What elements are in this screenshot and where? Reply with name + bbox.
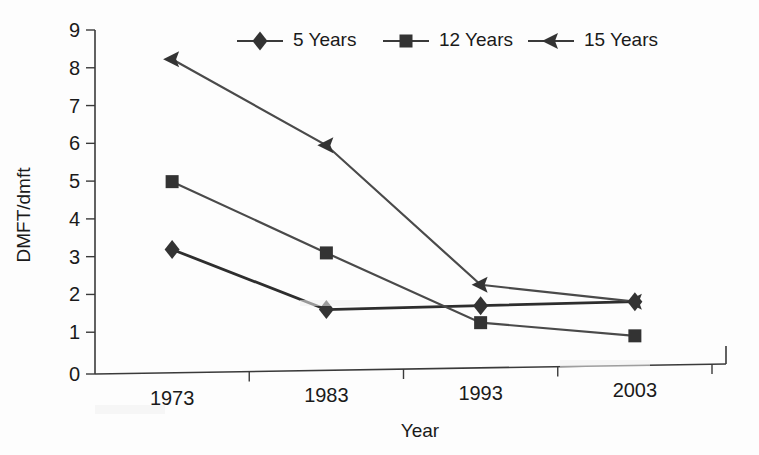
legend-item-1[interactable]: 12 Years [383, 29, 513, 50]
x-tick-label: 1973 [150, 387, 195, 409]
y-tick-label: 7 [69, 95, 80, 117]
marker-square [474, 316, 487, 329]
y-tick-label: 6 [69, 132, 80, 154]
y-tick-label: 9 [69, 19, 80, 41]
legend-label-1: 12 Years [439, 29, 513, 50]
series-line-1 [172, 182, 635, 336]
legend-item-0[interactable]: 5 Years [237, 29, 356, 50]
x-axis-title: Year [401, 420, 440, 441]
series-line-2 [172, 59, 635, 301]
x-tick-label: 1993 [458, 382, 503, 404]
marker-square [628, 329, 641, 342]
chart-axes [95, 30, 726, 374]
x-axis-ticks: 1973198319932003 [150, 364, 712, 409]
series-15-years [163, 51, 642, 309]
legend-label-0: 5 Years [293, 29, 356, 50]
y-tick-label: 1 [69, 321, 80, 343]
y-tick-label: 0 [69, 363, 80, 385]
marker-triangle [317, 137, 333, 153]
marker-diamond [319, 300, 334, 319]
marker-square [320, 246, 333, 259]
y-tick-label: 8 [69, 57, 80, 79]
x-tick-label: 2003 [613, 379, 658, 401]
legend-label-2: 15 Years [584, 29, 658, 50]
marker-diamond [473, 296, 488, 315]
marker-square [400, 35, 413, 48]
y-axis-title: DMFT/dmft [13, 167, 34, 263]
series-line-0 [172, 249, 635, 309]
y-tick-label: 5 [69, 170, 80, 192]
chart-legend: 5 Years12 Years15 Years [237, 29, 658, 50]
y-tick-label: 3 [69, 246, 80, 268]
series-5-years [165, 240, 643, 319]
marker-square [166, 175, 179, 188]
legend-item-2[interactable]: 15 Years [528, 29, 658, 50]
marker-triangle [163, 51, 179, 67]
y-tick-label: 2 [69, 283, 80, 305]
y-axis-ticks: 0123456789 [69, 19, 95, 385]
marker-diamond [253, 32, 268, 51]
x-axis-spine [95, 364, 726, 374]
y-tick-label: 4 [69, 208, 80, 230]
series-12-years [166, 175, 642, 342]
chart-series [163, 51, 642, 342]
marker-diamond [165, 240, 180, 259]
dmft-line-chart: 5 Years12 Years15 Years 0123456789 19731… [0, 0, 759, 455]
x-tick-label: 1983 [304, 384, 349, 406]
chart-figure: 5 Years12 Years15 Years 0123456789 19731… [0, 0, 759, 455]
